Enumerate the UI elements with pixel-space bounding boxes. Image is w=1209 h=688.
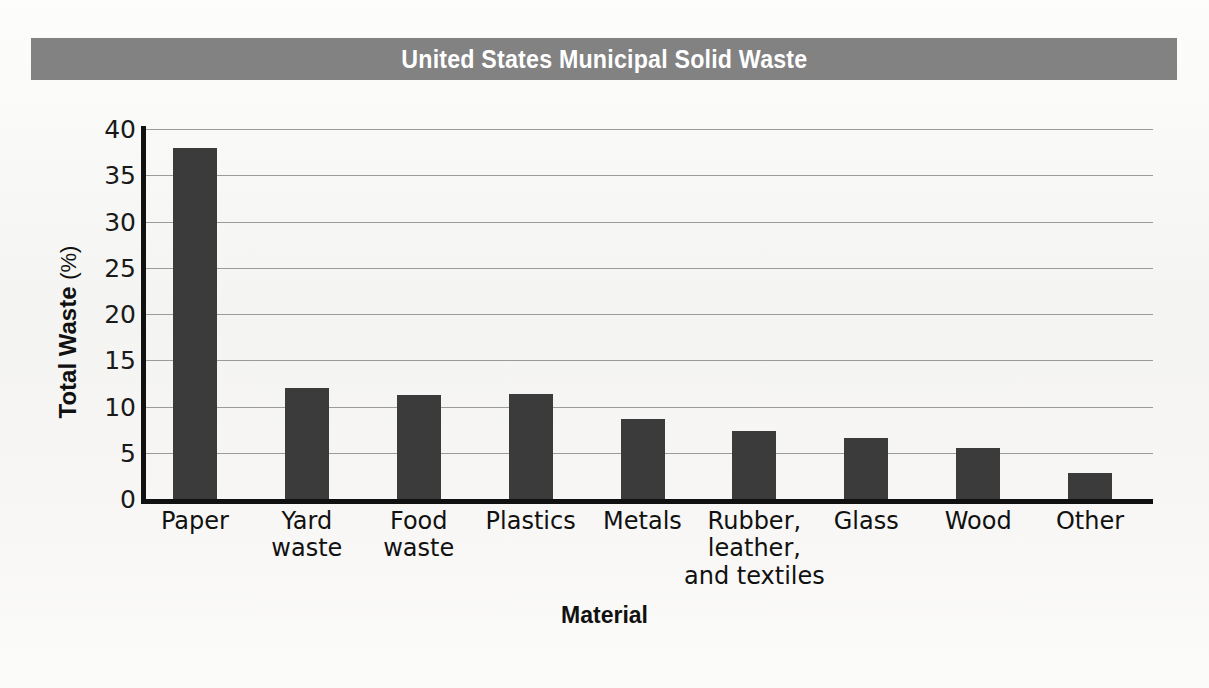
plot-area [146, 129, 1153, 499]
y-axis-title-main: Total Waste [54, 286, 81, 418]
y-tick-label: 5 [88, 438, 136, 467]
bar [173, 148, 217, 500]
y-tick-label: 40 [88, 115, 136, 144]
y-tick-label: 30 [88, 207, 136, 236]
y-axis-title-unit: (%) [56, 246, 81, 280]
gridline [146, 175, 1153, 176]
gridline [146, 360, 1153, 361]
y-axis-line [141, 126, 146, 503]
bar-chart: 0510152025303540 Total Waste (%) PaperYa… [0, 0, 1209, 688]
gridline [146, 222, 1153, 223]
gridline [146, 129, 1153, 130]
y-tick-label: 25 [88, 253, 136, 282]
bar [397, 395, 441, 499]
figure-page: United States Municipal Solid Waste 0510… [0, 0, 1209, 688]
y-axis-ticks: 0510152025303540 [84, 0, 136, 688]
y-tick-label: 10 [88, 392, 136, 421]
x-axis-line [141, 499, 1153, 504]
bar [1068, 473, 1112, 499]
gridline [146, 268, 1153, 269]
bar [509, 394, 553, 499]
x-axis-title: Material [0, 602, 1209, 629]
bar [621, 419, 665, 499]
bar [732, 431, 776, 499]
gridline [146, 314, 1153, 315]
bar [844, 438, 888, 499]
bar [956, 448, 1000, 499]
y-axis-title: Total Waste (%) [54, 202, 82, 462]
bar [285, 388, 329, 499]
y-tick-label: 20 [88, 300, 136, 329]
y-tick-label: 35 [88, 161, 136, 190]
y-tick-label: 15 [88, 346, 136, 375]
x-tick-label: Other [995, 508, 1185, 535]
